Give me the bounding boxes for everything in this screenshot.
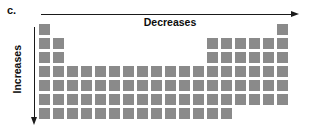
panel-label: c. xyxy=(7,5,16,16)
periodic-table-cell xyxy=(207,66,218,77)
periodic-table-cell xyxy=(53,66,64,77)
periodic-table-cell xyxy=(123,66,134,77)
periodic-table-cell xyxy=(179,108,190,119)
periodic-table-cell xyxy=(109,108,120,119)
periodic-table-cell xyxy=(123,94,134,105)
periodic-table-cell xyxy=(277,94,288,105)
periodic-table-cell xyxy=(39,66,50,77)
periodic-table-cell xyxy=(263,52,274,63)
periodic-table-cell xyxy=(235,94,246,105)
horizontal-axis-label: Decreases xyxy=(41,17,299,28)
periodic-table-cell xyxy=(221,80,232,91)
periodic-table-cell xyxy=(39,108,50,119)
periodic-table-cell xyxy=(109,80,120,91)
periodic-table-cell xyxy=(137,108,148,119)
periodic-table-cell xyxy=(81,80,92,91)
periodic-table-cell xyxy=(221,108,232,119)
periodic-table-cell xyxy=(249,80,260,91)
arrow-shaft xyxy=(34,27,35,118)
periodic-table-cell xyxy=(109,66,120,77)
periodic-table-cell xyxy=(277,80,288,91)
periodic-table-cell xyxy=(277,66,288,77)
periodic-table-cell xyxy=(207,108,218,119)
periodic-table-cell xyxy=(207,38,218,49)
periodic-table-cell xyxy=(39,80,50,91)
periodic-table-cell xyxy=(193,94,204,105)
periodic-table-cell xyxy=(221,38,232,49)
periodic-table-cell xyxy=(221,94,232,105)
periodic-table-cell xyxy=(193,80,204,91)
periodic-table-cell xyxy=(109,94,120,105)
periodic-table-cell xyxy=(235,66,246,77)
periodic-trend-figure: c. Decreases Increases xyxy=(0,0,319,133)
periodic-table-cell xyxy=(81,94,92,105)
periodic-table-cell xyxy=(235,38,246,49)
periodic-table-cell xyxy=(53,52,64,63)
periodic-table-cell xyxy=(137,94,148,105)
periodic-table-cell xyxy=(235,52,246,63)
periodic-table-cell xyxy=(67,94,78,105)
periodic-table-cell xyxy=(165,80,176,91)
periodic-table-cell xyxy=(95,66,106,77)
periodic-table-cell xyxy=(263,66,274,77)
periodic-table-cell xyxy=(221,52,232,63)
periodic-table-cell xyxy=(165,108,176,119)
periodic-table-cell xyxy=(39,52,50,63)
periodic-table-cell xyxy=(137,80,148,91)
periodic-table-cell xyxy=(221,66,232,77)
periodic-table-cell xyxy=(277,38,288,49)
periodic-table-cell xyxy=(249,38,260,49)
periodic-table-cell xyxy=(137,66,148,77)
periodic-table-cell xyxy=(179,80,190,91)
periodic-table-cell xyxy=(151,80,162,91)
periodic-table-cell xyxy=(39,94,50,105)
periodic-table-cell xyxy=(277,52,288,63)
periodic-table-cell xyxy=(165,94,176,105)
periodic-table-cell xyxy=(53,94,64,105)
periodic-table-cell xyxy=(95,108,106,119)
periodic-table-cell xyxy=(123,108,134,119)
periodic-table-cell xyxy=(249,52,260,63)
periodic-table-cell xyxy=(95,80,106,91)
periodic-table-cell xyxy=(193,66,204,77)
arrow-head xyxy=(31,117,37,125)
periodic-table-cell xyxy=(235,80,246,91)
periodic-table-cell xyxy=(95,94,106,105)
periodic-table-cell xyxy=(207,52,218,63)
periodic-table-cell xyxy=(39,24,50,35)
periodic-table-cell xyxy=(53,38,64,49)
periodic-table-cell xyxy=(151,66,162,77)
vertical-axis-label: Increases xyxy=(12,26,23,112)
periodic-table-cell xyxy=(81,108,92,119)
periodic-table-cell xyxy=(207,80,218,91)
periodic-table-cell xyxy=(123,80,134,91)
periodic-table-cell xyxy=(249,66,260,77)
periodic-table-cell xyxy=(151,108,162,119)
periodic-table-cell xyxy=(193,108,204,119)
arrow-shaft xyxy=(41,14,292,15)
periodic-table-cell xyxy=(67,80,78,91)
periodic-table-cell xyxy=(179,66,190,77)
periodic-table-cell xyxy=(263,94,274,105)
periodic-table-cell xyxy=(249,94,260,105)
periodic-table-cell xyxy=(151,94,162,105)
periodic-table-cell xyxy=(53,108,64,119)
periodic-table-cell xyxy=(165,66,176,77)
periodic-table-cell xyxy=(53,80,64,91)
periodic-table-cell xyxy=(39,38,50,49)
periodic-table-cell xyxy=(179,94,190,105)
periodic-table-cell xyxy=(277,24,288,35)
periodic-table-cell xyxy=(263,38,274,49)
periodic-table-cell xyxy=(81,66,92,77)
periodic-table-cell xyxy=(263,80,274,91)
periodic-table-cell xyxy=(67,108,78,119)
periodic-table-cell xyxy=(207,94,218,105)
periodic-table-cell xyxy=(67,66,78,77)
